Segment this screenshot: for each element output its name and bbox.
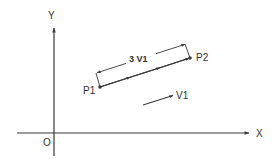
vector-v1-label: V1 <box>176 90 189 101</box>
dimension-line: 3 V1 <box>96 44 190 87</box>
vector-diagram: Y X O P1 P2 3 V1 V1 <box>0 0 276 162</box>
point-p1-label: P1 <box>83 85 96 96</box>
vector-v1: V1 <box>143 90 189 105</box>
x-axis-label: X <box>256 128 263 139</box>
origin-label: O <box>43 137 51 148</box>
y-axis-label: Y <box>48 10 55 21</box>
dimension-label: 3 V1 <box>129 54 148 64</box>
y-axis: Y <box>48 10 55 156</box>
point-p2-label: P2 <box>196 52 209 63</box>
